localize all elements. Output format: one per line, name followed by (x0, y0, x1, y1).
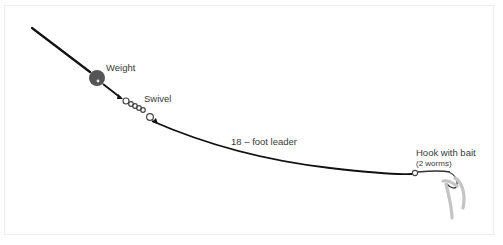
fishing-rig-diagram (0, 0, 503, 245)
weight-icon (89, 70, 105, 86)
worm-bait-icon (443, 178, 464, 218)
bait-note-label: (2 worms) (416, 159, 452, 168)
weight-label: Weight (106, 62, 135, 73)
main-line (32, 28, 90, 72)
leader-label: 18 – foot leader (231, 136, 297, 147)
leader-line (152, 121, 412, 174)
swivel-label: Swivel (144, 93, 171, 104)
hook-label: Hook with bait (416, 147, 476, 158)
